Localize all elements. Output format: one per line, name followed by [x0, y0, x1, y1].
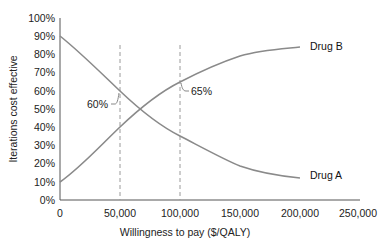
- x-tick: 100,000: [161, 207, 199, 219]
- drug-a-label: Drug A: [310, 169, 342, 181]
- y-tick: 30%: [34, 139, 55, 151]
- y-tick-labels: 0% 10% 20% 30% 40% 50% 60% 70% 80% 90% 1…: [28, 12, 55, 206]
- y-tick: 10%: [34, 176, 55, 188]
- y-tick: 90%: [34, 30, 55, 42]
- drug-b-label: Drug B: [310, 40, 343, 52]
- annot-65-leader: [181, 83, 189, 91]
- y-tick: 100%: [28, 12, 55, 24]
- x-tick-labels: 0 50,000 100,000 150,000 200,000 250,000: [57, 207, 377, 219]
- y-axis-title: Iterations cost effective: [7, 55, 19, 162]
- x-tick: 0: [57, 207, 63, 219]
- annot-65-label: 65%: [191, 85, 212, 97]
- annot-60-leader: [111, 93, 119, 104]
- x-axis-title: Willingness to pay ($/QALY): [120, 226, 251, 238]
- y-tick: 70%: [34, 66, 55, 78]
- y-tick: 60%: [34, 85, 55, 97]
- y-tick: 20%: [34, 157, 55, 169]
- y-tick: 80%: [34, 48, 55, 60]
- cost-effectiveness-acceptability-chart: 0% 10% 20% 30% 40% 50% 60% 70% 80% 90% 1…: [0, 0, 388, 247]
- x-tick: 200,000: [281, 207, 319, 219]
- y-tick: 50%: [34, 103, 55, 115]
- x-tick: 150,000: [221, 207, 259, 219]
- x-tick: 250,000: [339, 207, 377, 219]
- y-tick: 40%: [34, 121, 55, 133]
- x-tick: 50,000: [104, 207, 136, 219]
- chart-svg: 0% 10% 20% 30% 40% 50% 60% 70% 80% 90% 1…: [0, 0, 388, 247]
- y-tick: 0%: [40, 194, 55, 206]
- annot-60-label: 60%: [87, 98, 108, 110]
